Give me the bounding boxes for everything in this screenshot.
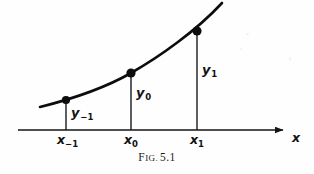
ordinate-label-y-0: y0 (136, 86, 151, 99)
data-point-marker-1 (192, 26, 201, 35)
x-axis-name-label: x (292, 132, 300, 145)
figure-container: y−1 y0 y1 x−1 x0 x1 x FIG.5.1 (0, 0, 314, 174)
ordinate-label-y-minus-1: y−1 (71, 106, 93, 119)
scan-speckle (289, 57, 291, 61)
data-point-marker-minus-1 (62, 96, 70, 104)
data-point-marker-0 (126, 68, 135, 77)
x-tick-label-0: x0 (124, 134, 138, 147)
figure-graphic (0, 0, 314, 174)
scan-speckle (246, 33, 249, 35)
caption-smallcaps: IG. (145, 153, 158, 163)
ordinate-label-y-1: y1 (202, 63, 217, 76)
x-tick-label-1: x1 (190, 134, 204, 147)
figure-caption: FIG.5.1 (0, 151, 314, 163)
x-tick-label-minus-1: x−1 (57, 134, 78, 147)
caption-number: 5.1 (160, 151, 176, 163)
scan-speckle (240, 48, 242, 50)
